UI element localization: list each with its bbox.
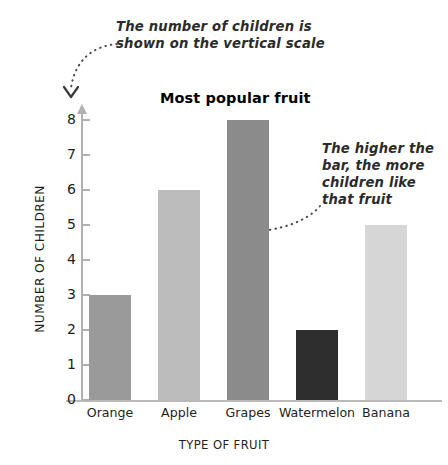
y-axis-tick xyxy=(83,119,90,121)
y-axis-tick-label: 1 xyxy=(46,356,76,372)
y-axis-tick-label: 3 xyxy=(46,286,76,302)
y-axis-tick-label: 8 xyxy=(46,111,76,127)
y-axis-tick xyxy=(83,154,90,156)
y-axis-tick xyxy=(83,259,90,261)
bar-apple xyxy=(158,190,200,400)
y-axis-tick-label: 7 xyxy=(46,146,76,162)
bar-watermelon xyxy=(296,330,338,400)
bar-grapes xyxy=(227,120,269,400)
y-axis-tick xyxy=(83,189,90,191)
y-axis-tick xyxy=(83,224,90,226)
bar-banana xyxy=(365,225,407,400)
y-axis-tick-label: 2 xyxy=(46,321,76,337)
chart-title: Most popular fruit xyxy=(160,90,310,106)
y-axis-tick-label: 4 xyxy=(46,251,76,267)
y-axis-tick-label: 5 xyxy=(46,216,76,232)
bar-chart: Most popular fruit 012345678 NUMBER OF C… xyxy=(0,0,448,465)
bar-orange xyxy=(89,295,131,400)
x-axis-label-banana: Banana xyxy=(341,405,431,420)
y-axis-title: NUMBER OF CHILDREN xyxy=(33,159,47,359)
x-axis-line xyxy=(66,400,442,402)
y-axis-tick-label: 6 xyxy=(46,181,76,197)
x-axis-title: TYPE OF FRUIT xyxy=(0,438,448,452)
